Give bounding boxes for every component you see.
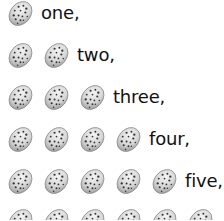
number-word: one,: [41, 4, 79, 22]
cookie-icon: [42, 167, 71, 196]
cookie-icon: [42, 83, 71, 112]
cookie-icon: [186, 207, 215, 221]
cookie-icon: [78, 167, 107, 196]
cookie-icon: [6, 41, 35, 70]
count-row: three,: [6, 82, 165, 112]
cookie-icon: [6, 125, 35, 154]
count-row: one,: [6, 0, 79, 28]
cookie-icon: [42, 207, 71, 221]
count-row: five,: [6, 166, 223, 196]
cookie-icon: [78, 207, 107, 221]
cookie-icon: [6, 167, 35, 196]
count-row: two,: [6, 40, 115, 70]
cookie-icon: [114, 207, 143, 221]
number-word: two,: [77, 46, 115, 64]
cookie-icon: [114, 125, 143, 154]
number-word: five,: [185, 172, 223, 190]
count-row: [6, 206, 221, 220]
cookie-icon: [150, 207, 179, 221]
count-row: four,: [6, 124, 190, 154]
cookie-icon: [78, 83, 107, 112]
cookie-icon: [114, 167, 143, 196]
cookie-icon: [150, 167, 179, 196]
number-word: four,: [149, 130, 190, 148]
cookie-icon: [78, 125, 107, 154]
cookie-icon: [6, 83, 35, 112]
cookie-icon: [6, 207, 35, 221]
number-word: three,: [113, 88, 165, 106]
cookie-icon: [42, 41, 71, 70]
cookie-icon: [6, 0, 35, 28]
cookie-icon: [42, 125, 71, 154]
